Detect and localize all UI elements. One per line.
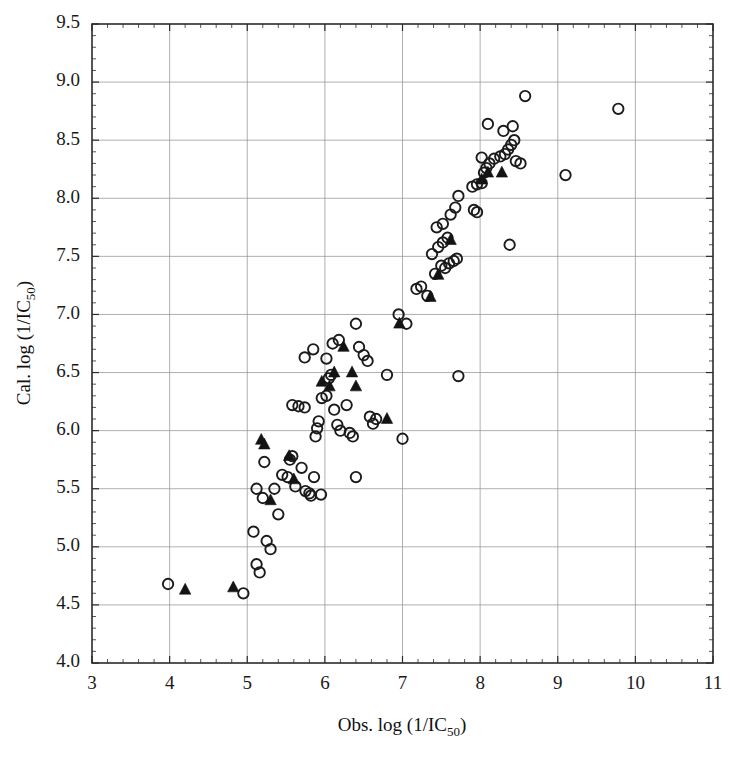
- data-point-triangle: [381, 413, 392, 424]
- axis-tick-labels: 4.04.55.05.56.06.57.07.58.08.59.09.53456…: [56, 11, 722, 692]
- data-point-circle: [273, 509, 283, 519]
- scatter-plot-figure: 4.04.55.05.56.06.57.07.58.08.59.09.53456…: [0, 0, 743, 757]
- data-point-circle: [341, 400, 351, 410]
- y-tick-label: 8.0: [56, 186, 80, 207]
- x-tick-label: 5: [243, 672, 253, 693]
- x-tick-label: 11: [704, 672, 722, 693]
- data-point-circle: [613, 104, 623, 114]
- y-tick-label: 7.5: [56, 244, 80, 265]
- gridlines: [92, 24, 713, 663]
- x-tick-label: 8: [475, 672, 485, 693]
- data-point-circle: [476, 152, 486, 162]
- data-point-circle: [321, 353, 331, 363]
- data-point-circle: [452, 253, 462, 263]
- y-tick-label: 4.0: [56, 650, 80, 671]
- data-point-circle: [259, 457, 269, 467]
- data-point-circle: [520, 91, 530, 101]
- data-point-circle: [248, 527, 258, 537]
- data-point-triangle: [425, 291, 436, 302]
- y-tick-label: 5.5: [56, 476, 80, 497]
- data-point-triangle: [350, 380, 361, 391]
- data-point-triangle: [328, 366, 339, 377]
- data-point-circle: [163, 579, 173, 589]
- x-axis-title: Obs. log (1/IC50): [338, 714, 467, 739]
- data-point-triangle: [496, 166, 507, 177]
- data-points: [163, 91, 624, 599]
- data-point-circle: [508, 121, 518, 131]
- x-tick-label: 7: [398, 672, 408, 693]
- data-point-circle: [472, 207, 482, 217]
- data-point-circle: [313, 416, 323, 426]
- data-point-circle: [560, 170, 570, 180]
- data-point-circle: [299, 352, 309, 362]
- plot-canvas: 4.04.55.05.56.06.57.07.58.08.59.09.53456…: [0, 0, 743, 757]
- data-point-circle: [296, 463, 306, 473]
- y-tick-label: 6.0: [56, 418, 80, 439]
- y-tick-label: 6.5: [56, 360, 80, 381]
- data-point-triangle: [346, 366, 357, 377]
- data-point-circle: [504, 240, 514, 250]
- y-tick-label: 7.0: [56, 302, 80, 323]
- data-point-circle: [351, 472, 361, 482]
- data-point-circle: [299, 402, 309, 412]
- data-point-circle: [309, 472, 319, 482]
- y-tick-label: 8.5: [56, 128, 80, 149]
- y-axis-title: Cal. log (1/IC50): [13, 281, 38, 405]
- x-tick-label: 6: [320, 672, 330, 693]
- data-point-circle: [351, 319, 361, 329]
- x-tick-label: 4: [165, 672, 175, 693]
- y-tick-label: 4.5: [56, 592, 80, 613]
- data-point-circle: [308, 344, 318, 354]
- data-point-circle: [427, 249, 437, 259]
- data-point-circle: [453, 191, 463, 201]
- x-tick-label: 3: [87, 672, 97, 693]
- data-point-circle: [382, 370, 392, 380]
- x-tick-label: 10: [626, 672, 645, 693]
- y-tick-label: 5.0: [56, 534, 80, 555]
- data-point-circle: [329, 405, 339, 415]
- y-tick-label: 9.0: [56, 69, 80, 90]
- data-point-triangle: [228, 581, 239, 592]
- data-point-circle: [483, 119, 493, 129]
- y-tick-label: 9.5: [56, 11, 80, 32]
- x-tick-label: 9: [553, 672, 563, 693]
- data-point-triangle: [179, 583, 190, 594]
- data-point-triangle: [288, 473, 299, 484]
